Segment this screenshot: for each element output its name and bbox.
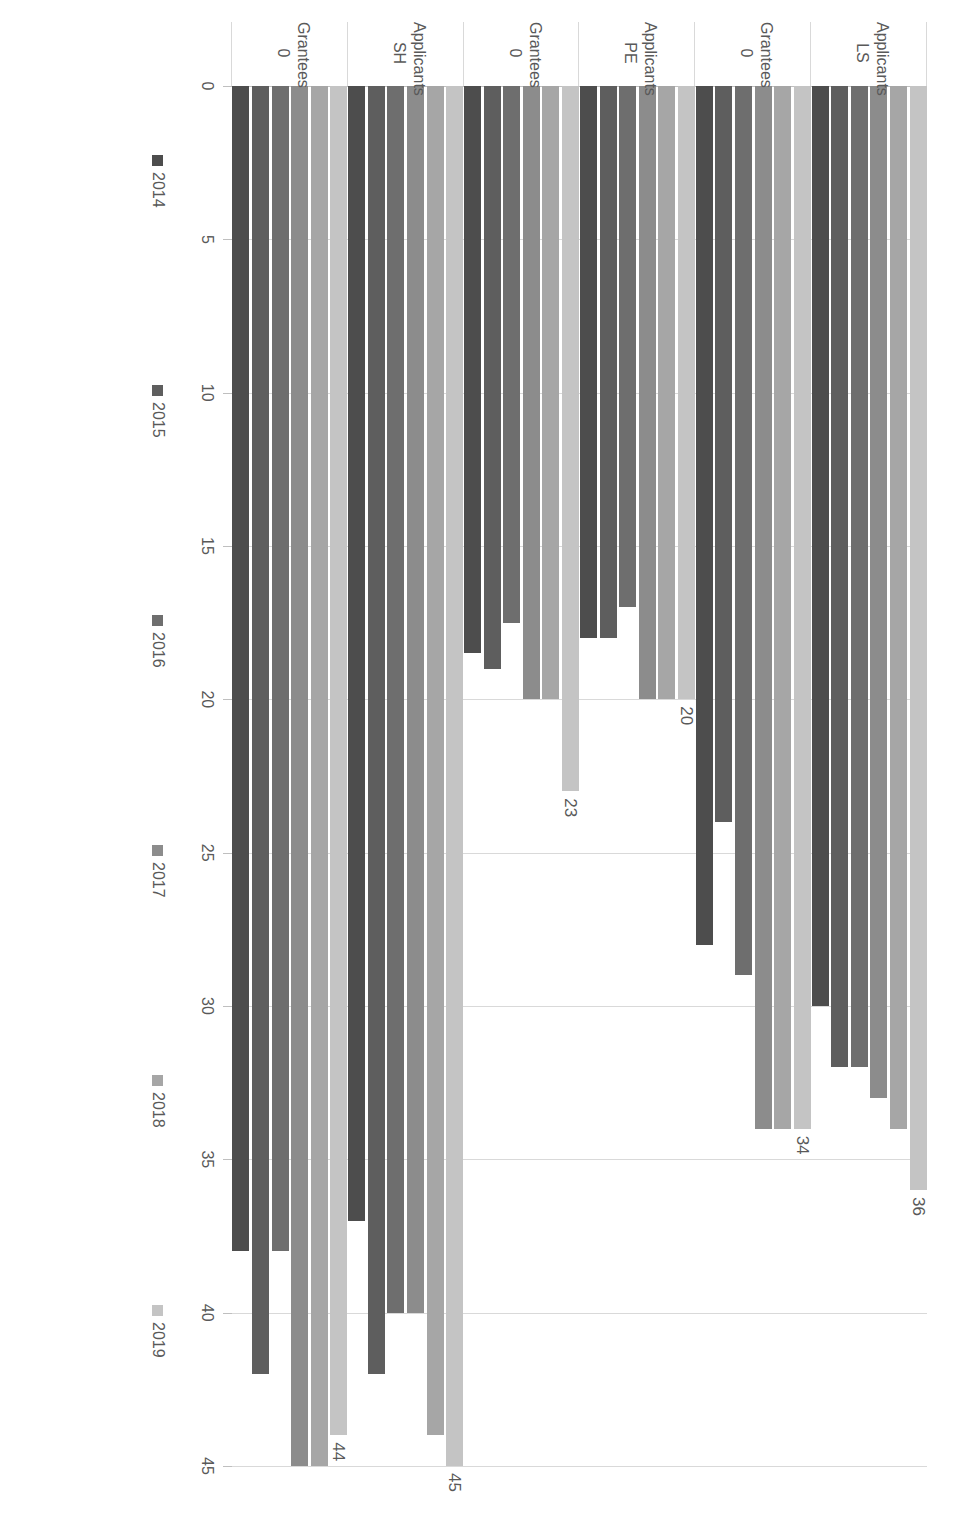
value-tick-label-25: 25 — [198, 833, 216, 873]
bar-row — [580, 86, 597, 1466]
legend-item-2019[interactable]: 2019 — [149, 1305, 167, 1358]
bar-2016[interactable] — [387, 86, 404, 1313]
value-tick-label-15: 15 — [198, 526, 216, 566]
bar-2019[interactable] — [910, 86, 927, 1190]
bar-row — [484, 86, 501, 1466]
bar-row — [619, 86, 636, 1466]
legend-item-2016[interactable]: 2016 — [149, 615, 167, 668]
bar-row — [639, 86, 656, 1466]
bar-2019[interactable] — [446, 86, 463, 1466]
gridline-45 — [232, 1466, 927, 1467]
bar-2015[interactable] — [600, 86, 617, 638]
bar-row — [600, 86, 617, 1466]
bar-2015[interactable] — [368, 86, 385, 1374]
legend-item-2014[interactable]: 2014 — [149, 155, 167, 208]
bar-row — [812, 86, 829, 1466]
category-label-main: Grantees — [526, 22, 544, 84]
legend-item-2018[interactable]: 2018 — [149, 1075, 167, 1128]
bar-2017[interactable] — [639, 86, 656, 699]
category-label: Grantees0 — [506, 22, 544, 84]
category-separator — [347, 22, 348, 86]
bar-2019[interactable] — [678, 86, 695, 699]
legend-swatch-icon — [153, 1305, 164, 1316]
category-label-sub: 0 — [506, 22, 524, 84]
bar-2014[interactable] — [232, 86, 249, 1251]
legend-label: 2015 — [149, 402, 167, 438]
bar-data-label: 34 — [794, 1136, 811, 1155]
bar-2016[interactable] — [735, 86, 752, 975]
bar-2019[interactable] — [330, 86, 347, 1435]
bar-2019[interactable] — [794, 86, 811, 1129]
category-label-sub: LS — [853, 22, 871, 84]
value-tick-mark-35 — [223, 1159, 232, 1160]
category-label: ApplicantsPE — [621, 22, 659, 84]
bar-2015[interactable] — [484, 86, 501, 669]
bar-2017[interactable] — [523, 86, 540, 699]
value-tick-mark-30 — [223, 1006, 232, 1007]
bar-2018[interactable] — [311, 86, 328, 1466]
bar-2015[interactable] — [715, 86, 732, 822]
bar-2016[interactable] — [503, 86, 520, 623]
bar-2018[interactable] — [542, 86, 559, 699]
bar-row — [407, 86, 424, 1466]
bar-2019[interactable] — [562, 86, 579, 791]
bar-row — [755, 86, 772, 1466]
value-tick-label-10: 10 — [198, 373, 216, 413]
legend-item-2017[interactable]: 2017 — [149, 845, 167, 898]
legend-item-2015[interactable]: 2015 — [149, 385, 167, 438]
bar-row — [368, 86, 385, 1466]
category-axis-bound — [231, 22, 232, 86]
bar-data-label: 44 — [330, 1442, 347, 1461]
value-tick-label-5: 5 — [198, 219, 216, 259]
legend-label: 2017 — [149, 862, 167, 898]
bar-2014[interactable] — [348, 86, 365, 1221]
bar-row — [715, 86, 732, 1466]
value-tick-mark-0 — [223, 86, 232, 87]
category-label-sub: 0 — [737, 22, 755, 84]
bar-data-label: 23 — [562, 798, 579, 817]
bar-row: 44 — [330, 86, 347, 1466]
bar-2014[interactable] — [464, 86, 481, 653]
legend-swatch-icon — [153, 385, 164, 396]
bar-2017[interactable] — [870, 86, 887, 1098]
bar-2018[interactable] — [427, 86, 444, 1435]
bar-2016[interactable] — [619, 86, 636, 607]
bar-row: 34 — [794, 86, 811, 1466]
bar-row — [542, 86, 559, 1466]
category-separator — [579, 22, 580, 86]
bar-2015[interactable] — [252, 86, 269, 1374]
bar-2017[interactable] — [291, 86, 308, 1466]
bar-2016[interactable] — [272, 86, 289, 1251]
bar-2018[interactable] — [774, 86, 791, 1129]
category-axis-bound — [926, 22, 927, 86]
value-tick-mark-5 — [223, 239, 232, 240]
bar-2016[interactable] — [851, 86, 868, 1067]
legend-swatch-icon — [153, 155, 164, 166]
value-tick-mark-10 — [223, 393, 232, 394]
bar-row — [890, 86, 907, 1466]
bar-row — [870, 86, 887, 1466]
bar-row: 20 — [678, 86, 695, 1466]
bar-row — [272, 86, 289, 1466]
bar-group: 45 — [348, 86, 464, 1466]
value-tick-label-20: 20 — [198, 679, 216, 719]
bar-2017[interactable] — [755, 86, 772, 1129]
bar-2015[interactable] — [831, 86, 848, 1067]
bar-2018[interactable] — [658, 86, 675, 699]
bar-row — [252, 86, 269, 1466]
bar-row — [311, 86, 328, 1466]
category-label-main: Grantees — [294, 22, 312, 84]
bar-2014[interactable] — [580, 86, 597, 638]
bar-2017[interactable] — [407, 86, 424, 1313]
bar-row: 45 — [446, 86, 463, 1466]
bar-row — [774, 86, 791, 1466]
bar-2018[interactable] — [890, 86, 907, 1129]
category-label-sub: 0 — [274, 22, 292, 84]
rotated-chart-frame: 363420234544 051015202530354045 Applican… — [0, 0, 965, 1538]
bar-row — [523, 86, 540, 1466]
bar-2014[interactable] — [812, 86, 829, 1006]
category-label: ApplicantsLS — [853, 22, 891, 84]
bar-2014[interactable] — [696, 86, 713, 945]
legend-swatch-icon — [153, 615, 164, 626]
category-separator — [694, 22, 695, 86]
